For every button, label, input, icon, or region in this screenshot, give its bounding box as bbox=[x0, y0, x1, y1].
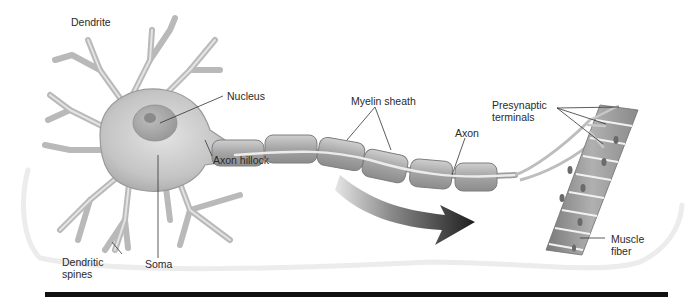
label-soma: Soma bbox=[145, 258, 172, 270]
label-dendritic-spines-line1: Dendritic bbox=[62, 256, 103, 268]
label-nucleus: Nucleus bbox=[227, 90, 265, 102]
label-dendritic-spines-line2: spines bbox=[62, 268, 103, 280]
label-muscle-fiber-line2: fiber bbox=[611, 245, 644, 257]
label-axon-hillock: Axon hillock bbox=[213, 154, 269, 166]
bottom-divider-bar bbox=[45, 292, 668, 297]
label-presynaptic-line2: terminals bbox=[492, 111, 547, 123]
label-dendrite: Dendrite bbox=[71, 16, 111, 28]
label-presynaptic-terminals: Presynaptic terminals bbox=[492, 99, 547, 123]
label-muscle-fiber: Muscle fiber bbox=[611, 233, 644, 257]
nucleolus bbox=[144, 113, 156, 123]
direction-arrow bbox=[335, 175, 475, 245]
label-axon: Axon bbox=[455, 127, 479, 139]
nucleus bbox=[133, 105, 177, 141]
label-muscle-fiber-line1: Muscle bbox=[611, 233, 644, 245]
label-myelin-sheath: Myelin sheath bbox=[351, 95, 416, 107]
label-dendritic-spines: Dendritic spines bbox=[62, 256, 103, 280]
label-presynaptic-line1: Presynaptic bbox=[492, 99, 547, 111]
neuron-diagram bbox=[0, 0, 697, 302]
